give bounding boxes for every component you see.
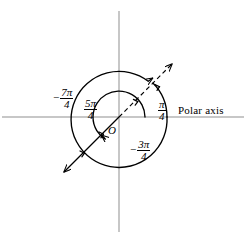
origin-label: O — [108, 125, 116, 136]
label-neg-seven-pi-over-4: − 7π 4 — [53, 87, 73, 110]
polar-axis-label: Polar axis — [178, 105, 224, 116]
label-neg-seven-pi-over-4-denominator: 4 — [64, 99, 70, 110]
label-pi-over-4: π 4 — [157, 97, 166, 122]
label-neg-three-pi-over-4-sign: − — [130, 144, 136, 155]
label-pi-over-4-denominator: 4 — [159, 111, 165, 122]
label-neg-three-pi-over-4: − 3π 4 — [130, 139, 150, 162]
polar-diagram: − 7π 4 5π 4 π 4 − 3π — [0, 0, 246, 239]
label-pi-over-4-numerator: π — [158, 99, 166, 111]
label-five-pi-over-4-numerator: 5π — [84, 98, 97, 110]
label-neg-three-pi-over-4-denominator: 4 — [141, 151, 147, 162]
label-five-pi-over-4: 5π 4 — [83, 96, 97, 121]
label-five-pi-over-4-denominator: 4 — [88, 110, 94, 121]
label-neg-seven-pi-over-4-sign: − — [53, 92, 59, 103]
polar-diagram-canvas — [0, 0, 246, 239]
